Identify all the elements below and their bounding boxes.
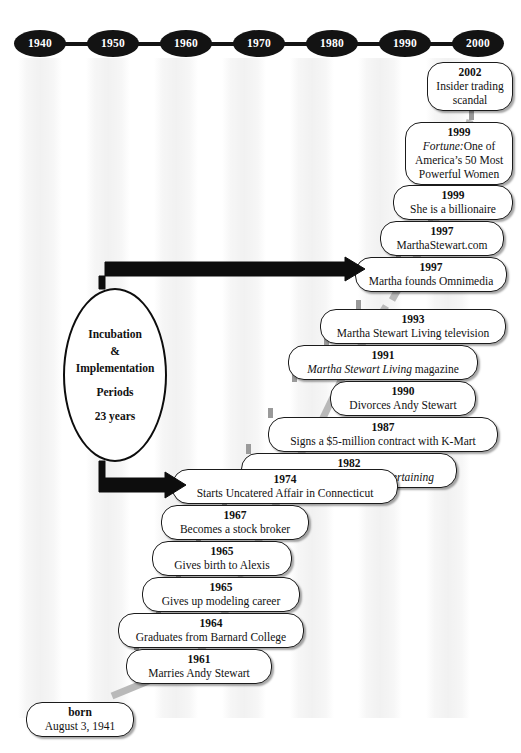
timeline-diagram: 1940 1950 1960 1970 1980 1990 2000 2002 … [0, 0, 521, 753]
period-arrows [0, 0, 521, 753]
